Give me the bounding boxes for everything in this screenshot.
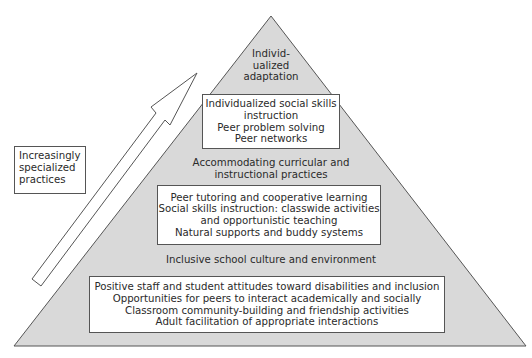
tier-2-item: Natural supports and buddy systems: [158, 227, 380, 239]
tier-1-item: Peer problem solving: [203, 122, 339, 134]
tier-2-title: Accommodating curricular and instruction…: [171, 157, 371, 180]
tier-1-item: Individualized social skills: [203, 98, 339, 110]
tier-2-box: Peer tutoring and cooperative learning S…: [157, 185, 381, 245]
side-label-line: specialized: [19, 162, 81, 174]
tier-1-title-line: ualized: [231, 60, 311, 72]
tier-1-box: Individualized social skills instruction…: [202, 94, 340, 149]
tier-2-title-line: instructional practices: [171, 169, 371, 181]
tier-2-item: and opportunistic teaching: [158, 215, 380, 227]
tier-2-title-line: Accommodating curricular and: [171, 157, 371, 169]
tier-1-item: instruction: [203, 110, 339, 122]
tier-2-item: Social skills instruction: classwide act…: [158, 203, 380, 215]
tier-3-box: Positive staff and student attitudes tow…: [89, 276, 445, 333]
tier-1-item: Peer networks: [203, 133, 339, 145]
tier-3-item: Classroom community-building and friends…: [90, 305, 444, 317]
tier-3-item: Opportunities for peers to interact acad…: [90, 293, 444, 305]
side-label-line: Increasingly: [19, 150, 81, 162]
side-label-line: practices: [19, 174, 81, 186]
tier-1-title: Individ- ualized adaptation: [231, 48, 311, 83]
tier-1-title-line: adaptation: [231, 71, 311, 83]
tier-3-item: Adult facilitation of appropriate intera…: [90, 316, 444, 328]
tier-2-item: Peer tutoring and cooperative learning: [158, 192, 380, 204]
tier-3-item: Positive staff and student attitudes tow…: [90, 281, 444, 293]
side-label-box: Increasingly specialized practices: [14, 146, 86, 194]
tier-1-title-line: Individ-: [231, 48, 311, 60]
tier-3-title: Inclusive school culture and environment: [141, 254, 401, 266]
tier-3-title-line: Inclusive school culture and environment: [141, 254, 401, 266]
